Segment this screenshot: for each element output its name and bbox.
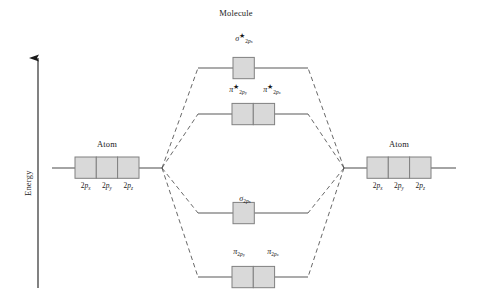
correlation-line-left-pi-star [162, 114, 198, 168]
correlation-line-left-pi [162, 168, 198, 277]
pi-2pz-label: π2pz [267, 248, 278, 257]
right-ao-box-2py [388, 157, 409, 178]
correlation-lines-left [162, 68, 198, 277]
sigma-star-2px-label: σ★2px [235, 33, 253, 44]
mo-level-sigma-2px [198, 202, 308, 223]
left-ao-label-2pz: 2pz [124, 182, 133, 191]
left-ao-box-2px [75, 157, 96, 178]
left-ao-label-2py: 2py [102, 182, 112, 191]
pi-2py-label: π2py [233, 248, 245, 257]
pi-box-2pz [253, 266, 274, 287]
sigma-2px-label: σ2px [239, 195, 251, 204]
sigma-box [233, 202, 254, 223]
right-ao-box-2pz [410, 157, 431, 178]
correlation-line-left-sigma-star [162, 68, 198, 168]
correlation-line-right-pi [308, 168, 344, 277]
right-ao-label-2pz: 2pz [416, 182, 425, 191]
pi-box-2py [232, 266, 253, 287]
right-ao-label-2px: 2px [373, 182, 383, 191]
molecule-heading: Molecule [219, 9, 252, 18]
left-ao-box-2pz [118, 157, 139, 178]
pi-star-box-2py [232, 103, 253, 124]
left-ao-label-2px: 2px [81, 182, 91, 191]
mo-diagram: Energy Molecule Atom Atom σ★2px π★2py π★… [0, 0, 485, 300]
energy-axis-label: Energy [24, 170, 33, 196]
right-atom-heading: Atom [389, 140, 409, 149]
correlation-line-left-sigma [162, 168, 198, 213]
mo-level-pi [198, 266, 308, 287]
right-atom-level [344, 157, 456, 178]
mo-level-sigma-star-2px [198, 57, 308, 78]
sigma-star-box [233, 57, 254, 78]
pi-star-2py-label: π★2py [229, 84, 247, 95]
right-ao-box-2px [367, 157, 388, 178]
correlation-line-right-pi-star [308, 114, 344, 168]
mo-level-pi-star [198, 103, 308, 124]
pi-star-box-2pz [253, 103, 274, 124]
left-atom-heading: Atom [97, 140, 117, 149]
right-ao-label-2py: 2py [394, 182, 404, 191]
correlation-line-right-sigma-star [308, 68, 344, 168]
pi-star-2pz-label: π★2pz [263, 84, 280, 95]
left-atom-level [52, 157, 162, 178]
left-ao-box-2py [96, 157, 117, 178]
correlation-lines-right [308, 68, 344, 277]
correlation-line-right-sigma [308, 168, 344, 213]
